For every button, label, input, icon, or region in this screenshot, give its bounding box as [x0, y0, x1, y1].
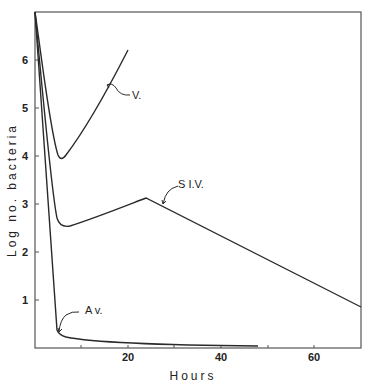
annotation-av: A v.: [58, 304, 103, 332]
x-tick-20: 20: [122, 351, 134, 363]
annotation-v: V.: [107, 84, 141, 101]
label-av: A v.: [85, 304, 103, 316]
x-axis: 20 40 60 Hours: [81, 345, 320, 383]
series-av: [35, 12, 258, 346]
x-tick-60: 60: [308, 351, 320, 363]
series-siv: [35, 12, 361, 307]
x-axis-title: Hours: [169, 369, 216, 383]
y-tick-1: 1: [22, 294, 28, 306]
annotation-siv: S I.V.: [162, 178, 204, 204]
y-tick-6: 6: [22, 54, 28, 66]
y-tick-3: 3: [22, 198, 28, 210]
y-axis-title: Log no. bacteria: [5, 123, 19, 257]
bacteria-chart: 6 5 4 3 2 1 Log no. bacteria 20 40 60 Ho…: [0, 0, 370, 388]
y-axis: 6 5 4 3 2 1 Log no. bacteria: [5, 54, 39, 306]
y-tick-2: 2: [22, 246, 28, 258]
label-siv: S I.V.: [178, 178, 204, 190]
label-v: V.: [132, 89, 141, 101]
x-tick-40: 40: [215, 351, 227, 363]
y-tick-4: 4: [22, 150, 29, 162]
y-tick-5: 5: [22, 102, 28, 114]
